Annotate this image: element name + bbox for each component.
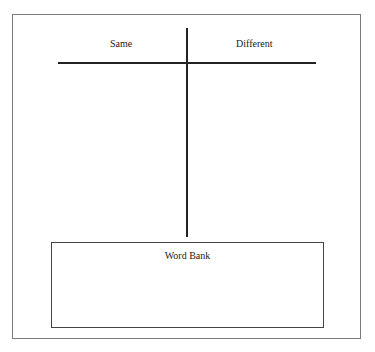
word-bank-box: Word Bank — [51, 242, 324, 328]
column-header-different: Different — [236, 38, 272, 49]
t-chart-vertical-divider — [186, 28, 188, 237]
t-chart-horizontal-divider — [58, 62, 316, 64]
word-bank-title: Word Bank — [52, 250, 323, 261]
column-header-same: Same — [110, 38, 132, 49]
